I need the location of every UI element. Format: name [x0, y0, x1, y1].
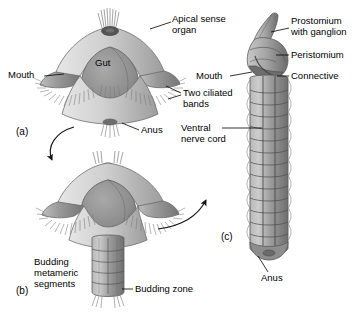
label-budding-zone: Budding zone [135, 283, 193, 294]
leader-ciliated-bands-2 [168, 95, 181, 99]
panel-id-c: (c) [221, 231, 233, 242]
larva-b-terminal-cilia [92, 295, 124, 308]
arrow-a-to-b [50, 127, 74, 160]
apical-sense-organ-highlight [106, 29, 114, 33]
label-budding-metameric-segments: Buddingmetamericsegments [34, 256, 78, 289]
label-connective: Connective [291, 70, 339, 81]
label-two-ciliated-bands: Two ciliatedbands [183, 87, 233, 109]
label-gut: Gut [95, 57, 110, 68]
worm-c-illustration [247, 13, 291, 260]
leader-anus-a [122, 123, 139, 130]
label-prostomium-with-ganglion: Prostomiumwith ganglion [291, 15, 346, 37]
larva-b-budding-trunk [92, 235, 124, 297]
panel-id-a: (a) [16, 126, 28, 137]
leader-apical-sense-organ [150, 22, 171, 29]
label-anus-a: Anus [141, 124, 163, 135]
label-mouth-c: Mouth [196, 70, 222, 81]
label-peristomium: Peristomium [291, 49, 344, 60]
larva-b-apical-cilia [93, 151, 123, 164]
larva-a-telotroch-cilia [101, 124, 119, 138]
label-apical-sense-organ: Apical senseorgan [172, 13, 226, 35]
worm-c-body [250, 75, 288, 254]
worm-c-anus-structure [263, 250, 275, 256]
label-ventral-nerve-cord: Ventralnerve cord [181, 122, 226, 144]
panel-id-b: (b) [16, 285, 28, 296]
label-mouth-a: Mouth [8, 69, 34, 80]
larva-a-anus-structure [103, 119, 117, 125]
label-anus-c: Anus [261, 272, 283, 283]
larva-a-illustration [34, 8, 186, 138]
leader-mouth-c [230, 72, 252, 76]
apical-tuft-cilia [98, 8, 119, 28]
